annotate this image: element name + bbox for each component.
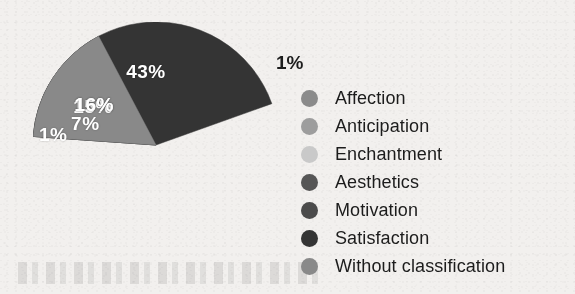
legend-swatch-icon: [301, 174, 318, 191]
legend-swatch-icon: [301, 202, 318, 219]
pie-slices-svg: [33, 22, 279, 268]
legend-item: Aesthetics: [301, 170, 505, 195]
chart-legend: AffectionAnticipationEnchantmentAestheti…: [301, 86, 505, 279]
legend-item-label: Affection: [335, 88, 406, 109]
legend-item-label: Without classification: [335, 256, 505, 277]
legend-item-label: Anticipation: [335, 116, 429, 137]
slice-label-without-classification: 16%: [74, 94, 114, 116]
legend-item: Affection: [301, 86, 505, 111]
legend-swatch-icon: [301, 230, 318, 247]
legend-item: Anticipation: [301, 114, 505, 139]
legend-item-label: Aesthetics: [335, 172, 419, 193]
slice-label-aesthetics: 7%: [71, 113, 99, 135]
legend-swatch-icon: [301, 146, 318, 163]
legend-swatch-icon: [301, 90, 318, 107]
legend-swatch-icon: [301, 258, 318, 275]
slice-label-satisfaction: 43%: [126, 61, 166, 83]
legend-item: Enchantment: [301, 142, 505, 167]
legend-swatch-icon: [301, 118, 318, 135]
pie-chart: 15%1%7%16%43%16%: [33, 22, 279, 268]
legend-item-label: Enchantment: [335, 144, 442, 165]
pie-chart-figure: 15%1%7%16%43%16% 1% AffectionAnticipatio…: [0, 0, 575, 294]
legend-item-label: Motivation: [335, 200, 418, 221]
slice-label-anticipation: 1%: [39, 124, 67, 146]
legend-item-label: Satisfaction: [335, 228, 429, 249]
legend-item: Without classification: [301, 254, 505, 279]
legend-item: Motivation: [301, 198, 505, 223]
legend-item: Satisfaction: [301, 226, 505, 251]
slice-label-enchantment: 1%: [276, 52, 303, 74]
